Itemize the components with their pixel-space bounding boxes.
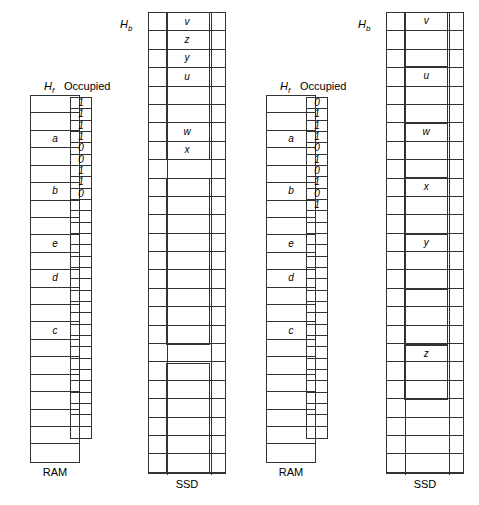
object-label: w <box>405 127 447 137</box>
occupied-cell: 1 <box>307 177 327 188</box>
right-occupied-header: Occupied <box>300 80 346 92</box>
occupied-cell <box>307 302 327 313</box>
ssd-guide-line <box>211 13 212 475</box>
left-ssd-header: Hb <box>120 18 132 33</box>
occupied-cell: 1 <box>307 109 327 120</box>
occupied-bit: 1 <box>78 109 84 119</box>
left-ssd-header-text: H <box>120 18 128 30</box>
occupied-bit: 1 <box>314 109 320 119</box>
occupied-cell <box>307 268 327 279</box>
occupied-bit: 0 <box>314 189 320 199</box>
right-ssd-header-sub: b <box>366 24 370 33</box>
cell-label: c <box>53 326 58 336</box>
occupied-bit: 1 <box>78 98 84 108</box>
left-ram-header-text: H <box>44 80 52 92</box>
right-ssd-object-free-5 <box>404 289 448 344</box>
left-ssd-object-block-1 <box>166 12 210 160</box>
cell-label: b <box>288 186 294 196</box>
occupied-bit: 1 <box>78 121 84 131</box>
left-ssd-object-block-3 <box>166 363 210 474</box>
left-ram-footer: RAM <box>30 466 80 478</box>
occupied-cell <box>71 393 91 404</box>
occupied-cell: 1 <box>71 177 91 188</box>
left-ssd-footer: SSD <box>148 478 226 490</box>
ssd-cell <box>387 436 463 454</box>
ssd-cell <box>387 399 463 417</box>
occupied-cell <box>71 359 91 370</box>
cell-label: e <box>288 239 294 249</box>
occupied-cell <box>71 268 91 279</box>
occupied-cell <box>307 245 327 256</box>
left-ssd-object-block-2 <box>166 178 210 344</box>
occupied-cell <box>71 336 91 347</box>
occupied-bit: 1 <box>314 200 320 210</box>
occupied-bit: 1 <box>314 155 320 165</box>
figure-canvas: Hf Occupied Hb abedc 111100110 vzyuwx RA… <box>0 0 479 505</box>
cell-label: d <box>288 273 294 283</box>
cell-label: c <box>289 326 294 336</box>
cell-label: e <box>52 239 58 249</box>
right-ssd-header-text: H <box>358 18 366 30</box>
occupied-bit: 1 <box>314 177 320 187</box>
right-ssd-object-y: y <box>404 234 448 289</box>
right-ssd-object-w: w <box>404 123 448 178</box>
right-ssd-header: Hb <box>358 18 370 33</box>
occupied-cell <box>71 347 91 358</box>
occupied-cell: 0 <box>71 189 91 200</box>
occupied-cell <box>71 279 91 290</box>
occupied-cell <box>307 370 327 381</box>
occupied-cell <box>307 325 327 336</box>
cell-label: d <box>52 273 58 283</box>
occupied-cell <box>307 404 327 415</box>
occupied-cell <box>71 325 91 336</box>
right-ssd-footer: SSD <box>386 478 464 490</box>
left-ram-header: Hf <box>44 80 54 95</box>
ssd-cell <box>387 418 463 436</box>
ssd-cell <box>149 344 225 362</box>
occupied-bit: 1 <box>314 121 320 131</box>
occupied-cell: 0 <box>71 143 91 154</box>
occupied-cell <box>307 381 327 392</box>
occupied-cell <box>71 302 91 313</box>
occupied-bit: 0 <box>314 98 320 108</box>
occupied-bit: 0 <box>78 189 84 199</box>
occupied-cell <box>71 291 91 302</box>
ram-cell <box>31 444 79 461</box>
occupied-bit: 1 <box>78 177 84 187</box>
object-label: z <box>405 349 447 359</box>
occupied-cell <box>71 404 91 415</box>
right-ram-footer: RAM <box>266 466 316 478</box>
occupied-cell <box>307 393 327 404</box>
occupied-bit: 1 <box>314 132 320 142</box>
ram-cell <box>267 444 315 461</box>
occupied-bit: 0 <box>78 155 84 165</box>
right-ram-header: Hf <box>280 80 290 95</box>
right-ssd-object-z: z <box>404 345 448 400</box>
occupied-cell <box>307 359 327 370</box>
occupied-cell <box>307 234 327 245</box>
occupied-cell <box>307 291 327 302</box>
occupied-cell <box>307 313 327 324</box>
ssd-cell <box>149 160 225 178</box>
occupied-cell <box>71 415 91 426</box>
object-label: y <box>405 238 447 248</box>
occupied-cell <box>71 381 91 392</box>
occupied-cell: 1 <box>71 109 91 120</box>
right-ssd-object-x: x <box>404 178 448 233</box>
occupied-cell <box>71 223 91 234</box>
right-ram-header-sub: f <box>288 86 290 95</box>
occupied-bit: 0 <box>314 143 320 153</box>
occupied-bit: 0 <box>78 143 84 153</box>
occupied-cell <box>307 347 327 358</box>
left-ssd-header-sub: b <box>128 24 132 33</box>
left-ram-header-sub: f <box>52 86 54 95</box>
left-occupied-header: Occupied <box>64 80 110 92</box>
occupied-cell <box>71 427 91 438</box>
object-label: v <box>405 16 447 26</box>
occupied-bit: 1 <box>78 132 84 142</box>
occupied-bit: 1 <box>78 166 84 176</box>
occupied-cell <box>307 336 327 347</box>
occupied-cell <box>71 211 91 222</box>
occupied-cell: 1 <box>307 200 327 211</box>
occupied-cell <box>71 313 91 324</box>
